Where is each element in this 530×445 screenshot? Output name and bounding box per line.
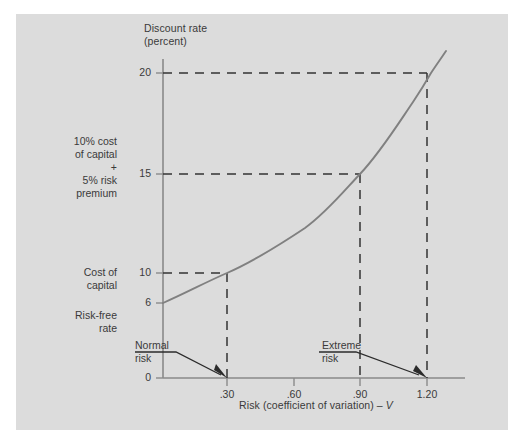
x-tick-label-060: .60: [274, 388, 314, 400]
y-tick-label-6: 6: [127, 296, 151, 308]
figure-root: Discount rate (percent) Risk (coefficien…: [0, 0, 530, 445]
risk-return-curve: [163, 51, 446, 303]
x-tick-label-120: 1.20: [407, 388, 447, 400]
plot-area: [16, 14, 508, 430]
x-axis-variable-symbol: V: [386, 399, 393, 411]
chart-panel: Discount rate (percent) Risk (coefficien…: [16, 14, 508, 430]
normal-risk-arrowhead: [214, 364, 227, 378]
premium-note: 10% cost of capital + 5% risk premium: [25, 135, 117, 200]
x-axis-title: Risk (coefficient of variation) – V: [166, 399, 466, 412]
y-tick-label-10: 10: [127, 266, 151, 278]
extreme-risk-callout: Extreme risk: [322, 339, 361, 364]
risk-free-rate-note: Risk-free rate: [25, 309, 117, 335]
y-axis-title: Discount rate (percent): [144, 22, 207, 48]
y-tick-label-20: 20: [127, 66, 151, 78]
normal-risk-callout: Normal risk: [135, 339, 169, 364]
y-tick-label-15: 15: [127, 167, 151, 179]
x-axis-title-text: Risk (coefficient of variation) –: [239, 399, 386, 411]
x-tick-label-090: .90: [340, 388, 380, 400]
x-tick-label-030: .30: [207, 388, 247, 400]
y-tick-label-0: 0: [127, 371, 151, 383]
caption-strip: [16, 434, 508, 444]
extreme-risk-arrowhead: [413, 365, 427, 378]
cost-of-capital-note: Cost of capital: [25, 266, 117, 292]
